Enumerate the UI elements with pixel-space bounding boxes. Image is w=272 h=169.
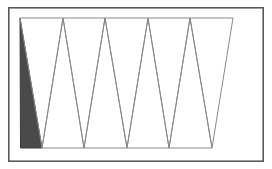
triangle-strip-svg [0, 0, 272, 169]
figure-canvas [0, 0, 272, 169]
panel-border [9, 8, 263, 161]
